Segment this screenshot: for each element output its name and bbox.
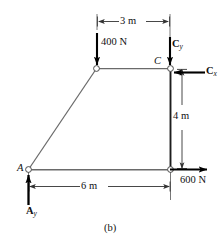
force-label-400n: 400 N: [101, 37, 127, 48]
pin-joints: [26, 66, 174, 173]
force-label-cy-subscript: y: [180, 42, 183, 51]
free-body-diagram-figure: 3 m 4 m 6 m 400 N Cy Cx 600 N Ay A C (b): [0, 0, 223, 244]
joint-c: [168, 66, 174, 72]
force-label-cx: Cx: [206, 66, 217, 78]
force-label-cx-subscript: x: [214, 69, 217, 78]
force-label-600n: 600 N: [180, 175, 206, 186]
force-label-ay-main: A: [26, 205, 34, 216]
dimension-label-6m: 6 m: [81, 181, 97, 192]
force-label-cy: Cy: [172, 39, 183, 51]
force-label-cy-main: C: [172, 38, 180, 49]
point-label-c: C: [154, 56, 161, 67]
joint-b: [94, 66, 100, 72]
dimension-label-3m: 3 m: [120, 16, 136, 27]
member-a-b: [29, 69, 97, 170]
figure-caption: (b): [104, 223, 116, 234]
frame-members: [29, 69, 171, 171]
joint-a: [26, 167, 32, 173]
force-label-ay-subscript: y: [34, 209, 37, 218]
force-label-cx-main: C: [206, 65, 214, 76]
point-label-a: A: [17, 163, 23, 174]
force-label-ay: Ay: [26, 206, 37, 218]
dimension-label-4m: 4 m: [173, 111, 189, 122]
